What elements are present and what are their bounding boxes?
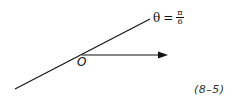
equals-sign: = xyxy=(163,11,173,25)
line-equation-label: θ = π 6 xyxy=(153,9,184,26)
equation-number: (8–5) xyxy=(194,83,225,96)
fraction-denominator: 6 xyxy=(177,18,182,26)
origin-label: O xyxy=(77,55,86,69)
arrowhead-icon xyxy=(158,52,168,59)
fraction: π 6 xyxy=(176,9,183,26)
theta-symbol: θ xyxy=(153,11,160,25)
ray-line-theta xyxy=(15,19,150,89)
